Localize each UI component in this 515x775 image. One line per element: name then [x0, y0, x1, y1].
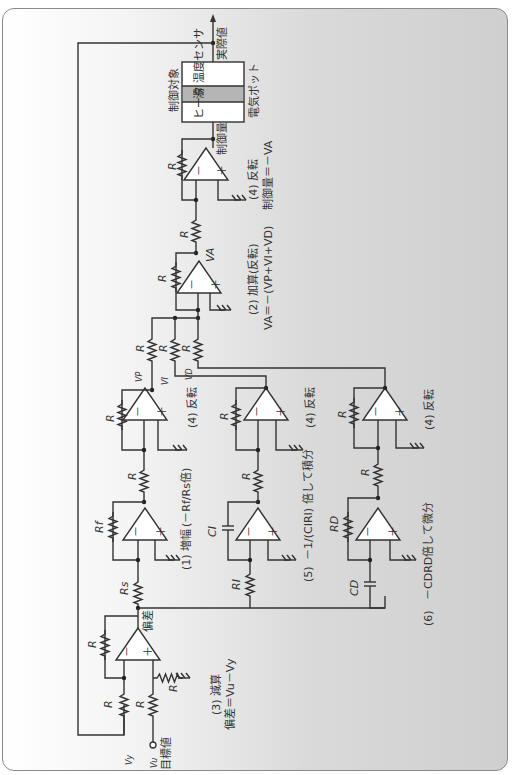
svg-text:＋: ＋ [142, 646, 155, 657]
stage-adder-label: (2) 加算(反転) [246, 243, 260, 315]
arrow-up-icon [210, 14, 216, 22]
stage-invert-p-label: (4) 反転 [186, 387, 199, 428]
svg-text:－: － [132, 406, 145, 417]
stage-integral-label: (5) [302, 566, 315, 582]
plant-sensor-label: 温度センサ [192, 28, 206, 83]
svg-text:Rf: Rf [93, 519, 106, 533]
svg-text:＋: ＋ [155, 526, 168, 537]
control-amount-label: 制御量 [215, 122, 229, 155]
stage-derivative-label: (6) [422, 610, 435, 626]
plant-box [182, 62, 244, 122]
svg-text:－: － [362, 526, 375, 537]
svg-text:R: R [104, 414, 117, 422]
svg-text:＋: ＋ [156, 406, 169, 417]
pid-circuit-diagram: 実際値 温度センサ 湯 ヒータ 制御対象 電気ポット 制御量 － ＋ R (4)… [0, 0, 515, 775]
svg-text:R: R [102, 700, 115, 708]
svg-text:RI: RI [230, 579, 243, 590]
svg-text:－: － [130, 526, 143, 537]
error-bus [138, 596, 385, 608]
vu-label: Vu [150, 758, 159, 768]
stage-invert-out-label: (4) 反転 [247, 159, 260, 200]
svg-text:＋: ＋ [394, 406, 407, 417]
svg-text:R: R [156, 274, 169, 282]
stage-subtract-formula: 偏差＝Vu－Vy [223, 658, 237, 730]
svg-text:R: R [178, 230, 191, 238]
svg-text:R: R [336, 410, 349, 418]
stage-subtract-label: (3) 減算 [209, 674, 223, 715]
svg-text:R: R [134, 700, 147, 708]
svg-text:＋: ＋ [275, 406, 288, 417]
error-label: 偏差 [141, 610, 155, 632]
svg-text:＋: ＋ [210, 279, 223, 290]
svg-text:R: R [180, 344, 193, 352]
svg-text:Rs: Rs [118, 581, 131, 595]
va-label: VA [204, 248, 217, 262]
svg-text:R: R [86, 640, 99, 648]
vy-label: Vy [125, 755, 134, 765]
svg-text:－: － [243, 526, 256, 537]
stage-integral-formula: －1/(CIRI) 倍して積分 [301, 449, 315, 560]
svg-text:－: － [121, 646, 134, 657]
svg-text:－: － [186, 279, 199, 290]
svg-text:RD: RD [328, 516, 341, 532]
svg-text:＋: ＋ [216, 165, 229, 176]
vp-label: VP [135, 372, 144, 382]
svg-text:R: R [167, 684, 180, 692]
plant-heater-label: ヒータ [193, 86, 206, 119]
svg-text:R: R [218, 412, 231, 420]
setpoint-label: 目標値 [159, 737, 173, 770]
svg-text:R: R [134, 344, 147, 352]
stage-invert-out-formula: 制御量＝－VA [261, 140, 275, 210]
svg-text:R: R [240, 472, 253, 480]
setpoint-terminal [150, 742, 156, 748]
svg-text:R: R [166, 162, 179, 170]
svg-text:R: R [359, 468, 372, 476]
svg-text:CD: CD [348, 580, 361, 596]
stage-adder-formula: VA＝－(VP+VI+VD) [262, 226, 275, 330]
svg-text:＋: ＋ [267, 526, 280, 537]
svg-text:－: － [251, 406, 264, 417]
svg-text:－: － [193, 165, 206, 176]
svg-text:R: R [157, 344, 170, 352]
stage-invert-i-label: (4) 反転 [304, 387, 317, 428]
svg-text:CI: CI [206, 526, 219, 537]
svg-text:－: － [370, 406, 383, 417]
stage-invert-d-label: (4) 反転 [423, 389, 436, 430]
svg-text:＋: ＋ [387, 526, 400, 537]
svg-text:R: R [126, 472, 139, 480]
vd-label: VD [185, 368, 194, 380]
stage-derivative-formula: －CDRD倍して微分 [421, 502, 435, 600]
stage-proportional-formula: (－Rf/Rs倍) [179, 468, 193, 527]
actual-value-label: 実際値 [215, 27, 229, 60]
vi-label: VI [161, 377, 170, 385]
plant-title: 制御対象 [167, 68, 181, 112]
stage-proportional-label: (1) 増幅 [180, 529, 193, 570]
plant-caption: 電気ポット [247, 63, 261, 118]
